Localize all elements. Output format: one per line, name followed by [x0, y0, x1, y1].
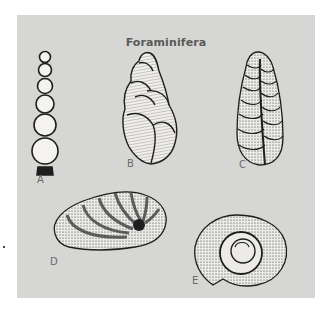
specimen-label-d: D	[50, 256, 58, 267]
specimen-c-drawing	[237, 52, 283, 165]
specimen-label-a: A	[37, 174, 44, 185]
specimen-label-c: C	[239, 159, 246, 170]
specimen-a-drawing	[32, 52, 58, 176]
specimen-d-drawing	[54, 192, 166, 250]
specimen-b-drawing	[123, 52, 177, 164]
stray-mark	[3, 246, 5, 248]
figure-panel: Foraminifera	[17, 15, 315, 298]
specimen-e-drawing	[195, 215, 287, 286]
specimen-label-e: E	[192, 275, 198, 286]
specimen-label-b: B	[127, 158, 134, 169]
specimen-illustrations	[17, 15, 315, 298]
